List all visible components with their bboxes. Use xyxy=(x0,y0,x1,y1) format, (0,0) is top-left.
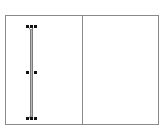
resize-handle-bottom-center[interactable] xyxy=(30,117,33,120)
resize-handle-middle-right[interactable] xyxy=(34,71,37,74)
right-panel[interactable] xyxy=(83,16,158,124)
resize-handle-top-center[interactable] xyxy=(30,25,33,28)
resize-handle-top-left[interactable] xyxy=(26,25,29,28)
resize-handle-top-right[interactable] xyxy=(34,25,37,28)
resize-handle-bottom-left[interactable] xyxy=(26,117,29,120)
resize-handle-bottom-right[interactable] xyxy=(34,117,37,120)
resize-handle-middle-left[interactable] xyxy=(26,71,29,74)
selected-line-shape[interactable] xyxy=(30,28,33,118)
drawing-canvas[interactable] xyxy=(0,0,163,135)
panel-divider xyxy=(82,15,83,125)
left-panel[interactable] xyxy=(6,16,82,124)
